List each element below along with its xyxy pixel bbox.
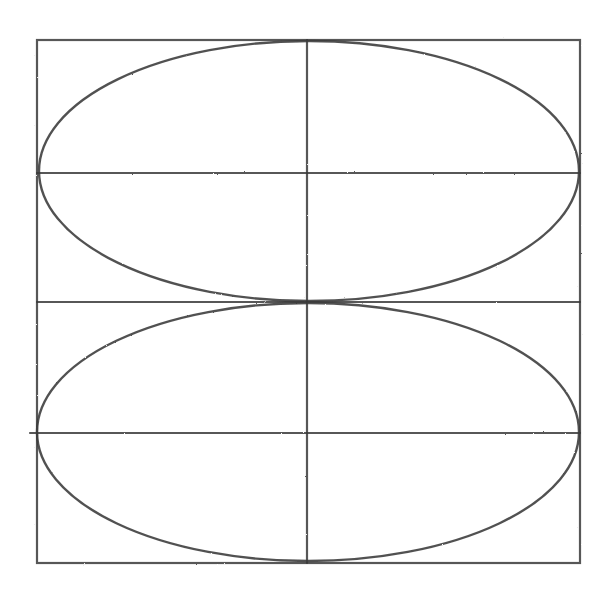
pencil-drawing <box>0 0 611 596</box>
upper-ellipse <box>39 41 579 301</box>
